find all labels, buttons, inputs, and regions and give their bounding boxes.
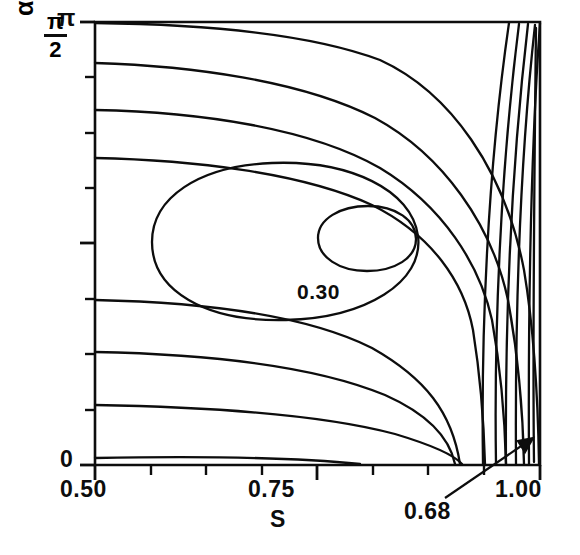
- y-axis-title-fraction-numerator: π: [44, 10, 67, 33]
- y-axis-title-alpha-subscript: 12: [25, 0, 42, 1]
- y-tick-label-zero: 0: [60, 448, 73, 471]
- y-axis-major-ticks: [80, 22, 95, 465]
- contour-lines: [95, 23, 540, 464]
- contour-level-label-0.30: 0.30: [297, 281, 340, 302]
- contour-edge-2: [516, 25, 535, 464]
- contour-open-8: [95, 457, 360, 464]
- contour-closed-outer: [152, 163, 418, 320]
- x-tick-label-1.00: 1.00: [495, 478, 542, 501]
- y-axis-title-fraction-denominator: 2: [44, 38, 67, 61]
- contour-open-5: [95, 300, 460, 464]
- contour-open-1: [95, 23, 539, 464]
- contour-0.68-corner: [534, 28, 536, 462]
- contour-plot-canvas: [0, 0, 580, 555]
- y-axis-title-fraction: π 2: [44, 10, 67, 61]
- contour-open-7: [95, 405, 462, 464]
- contour-closed-0.30: [318, 206, 416, 271]
- y-axis-title-alpha: α12: [10, 0, 42, 16]
- contour-open-6: [95, 352, 455, 464]
- y-axis-title-alpha-symbol: α: [10, 1, 38, 16]
- x-tick-label-0.75: 0.75: [248, 478, 295, 501]
- contour-level-label-0.68: 0.68: [404, 500, 451, 523]
- contour-plot-figure: 0.50 0.75 1.00 S 0 π α12 π 2 0.30 0.68: [0, 0, 580, 555]
- x-tick-label-0.50: 0.50: [60, 478, 107, 501]
- x-axis-title: S: [270, 508, 286, 531]
